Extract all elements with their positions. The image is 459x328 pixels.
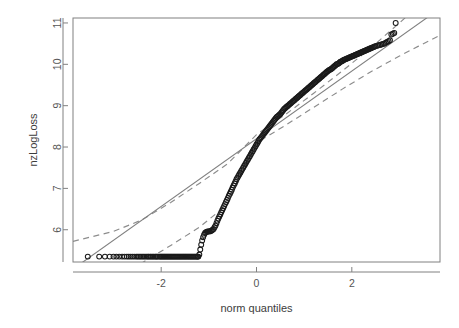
y-axis-tick-label: 11	[51, 17, 63, 28]
y-axis-title: nzLogLoss	[27, 113, 39, 167]
qq-reference-line	[73, 8, 440, 269]
data-point	[97, 254, 102, 259]
data-point	[413, 0, 418, 2]
qq-plot-figure: -202norm quantiles67891011nzLogLoss	[0, 0, 459, 328]
data-point	[198, 247, 203, 252]
y-axis-tick-label: 10	[51, 58, 63, 70]
data-point	[393, 21, 398, 26]
y-axis-tick-label: 7	[51, 185, 63, 191]
envelope-upper-bound	[73, 0, 440, 241]
data-point	[395, 0, 400, 2]
data-point	[405, 0, 410, 2]
data-point	[398, 0, 403, 2]
qq-plot-canvas: -202norm quantiles67891011nzLogLoss	[0, 0, 459, 328]
data-point	[403, 0, 408, 2]
data-point	[400, 0, 405, 2]
data-point	[407, 0, 412, 2]
data-point-group	[85, 0, 428, 259]
x-axis-tick-label: -2	[157, 277, 166, 289]
y-axis-tick-label: 9	[51, 103, 63, 109]
data-point	[399, 0, 404, 2]
y-axis-tick-label: 6	[51, 227, 63, 233]
x-axis: -202norm quantiles	[73, 267, 440, 314]
data-point	[402, 0, 407, 2]
x-axis-tick-label: 2	[349, 277, 355, 289]
x-axis-tick-label: 0	[254, 277, 260, 289]
data-point	[396, 0, 401, 2]
data-point	[102, 254, 107, 259]
data-point	[424, 0, 429, 2]
y-axis-tick-label: 8	[51, 144, 63, 150]
data-point	[409, 0, 414, 2]
x-axis-title: norm quantiles	[220, 302, 293, 314]
y-axis: 67891011nzLogLoss	[27, 17, 68, 262]
